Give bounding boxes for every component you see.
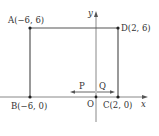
point-A xyxy=(28,26,31,29)
coordinate-diagram: A(−6, 6) D(2, 6) B(−6, 0) C(2, 0) O x y … xyxy=(0,0,159,136)
label-Q: Q xyxy=(99,82,106,91)
label-P: P xyxy=(79,82,85,91)
point-C xyxy=(116,95,119,98)
label-B: B(−6, 0) xyxy=(11,102,47,111)
point-O xyxy=(95,96,98,99)
q-arrow-head-icon xyxy=(110,90,115,93)
label-x-axis: x xyxy=(141,100,146,109)
point-D xyxy=(116,26,119,29)
y-axis-arrow-icon xyxy=(94,11,98,17)
label-A: A(−6, 6) xyxy=(8,16,44,25)
label-C: C(2, 0) xyxy=(103,101,132,110)
label-y-axis: y xyxy=(88,9,93,18)
point-B xyxy=(28,95,31,98)
p-arrow-head-icon xyxy=(70,90,75,93)
label-D: D(2, 6) xyxy=(121,24,151,33)
label-origin: O xyxy=(87,100,94,109)
